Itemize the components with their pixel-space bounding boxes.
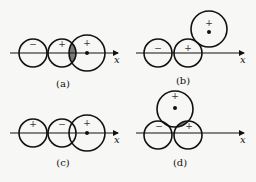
sign-label: + [185, 121, 193, 131]
panel-a: − + + x (a) [10, 35, 120, 89]
nucleus-dot [85, 51, 89, 55]
orbital-overlap-diagram: − + + x (a) − + + x (b) + − + x (c) [0, 0, 256, 182]
sign-label: + [171, 91, 179, 101]
sign-label: + [205, 18, 213, 28]
sign-label: + [83, 38, 91, 48]
sign-label: − [154, 43, 162, 53]
panel-label: (a) [56, 78, 70, 89]
nucleus-dot [85, 131, 89, 135]
sign-label: − [155, 121, 163, 131]
x-axis-label: x [114, 134, 120, 145]
sign-label: − [58, 119, 66, 129]
x-axis-label: x [114, 54, 120, 65]
sign-label: + [58, 39, 66, 49]
x-axis-label: x [240, 134, 246, 145]
x-axis-label: x [240, 54, 246, 65]
sign-label: + [184, 43, 192, 53]
panel-b: − + + x (b) [136, 11, 246, 86]
panel-label: (c) [56, 157, 70, 168]
panel-c: + − + x (c) [10, 115, 120, 168]
nucleus-dot [207, 30, 211, 34]
sign-label: + [29, 119, 37, 129]
sign-label: − [29, 39, 37, 49]
panel-label: (d) [173, 157, 187, 168]
panel-d: − + + x (d) [136, 91, 246, 168]
s-orbital [191, 11, 227, 47]
nucleus-dot [173, 106, 177, 110]
panel-label: (b) [176, 75, 190, 86]
sign-label: + [83, 118, 91, 128]
